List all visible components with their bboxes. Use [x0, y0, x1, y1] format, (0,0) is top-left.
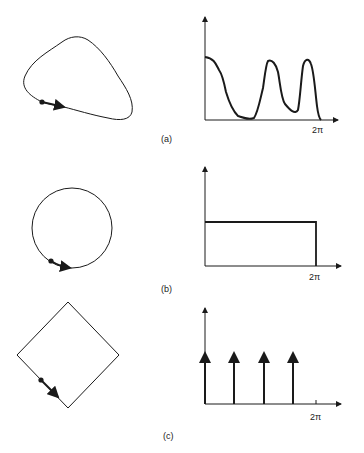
panel-b-caption: (b)	[161, 284, 172, 294]
panel-a-closed-curve	[24, 37, 133, 120]
figure-canvas	[0, 0, 364, 453]
panel-c-square	[17, 302, 119, 408]
panel-a-chart	[205, 17, 338, 120]
panel-a-x-end-label: 2π	[312, 125, 323, 135]
direction-arrow-icon	[42, 102, 64, 107]
panel-b-circle	[32, 188, 112, 268]
direction-arrow-icon	[41, 380, 58, 397]
panel-c-chart	[205, 308, 341, 404]
panel-c-x-end-label: 2π	[310, 412, 321, 422]
panel-b-chart	[205, 167, 341, 266]
panel-b-x-end-label: 2π	[309, 272, 320, 282]
direction-arrow-icon	[51, 261, 70, 268]
panel-a-caption: (a)	[161, 134, 172, 144]
panel-c-caption: (c)	[163, 431, 174, 441]
